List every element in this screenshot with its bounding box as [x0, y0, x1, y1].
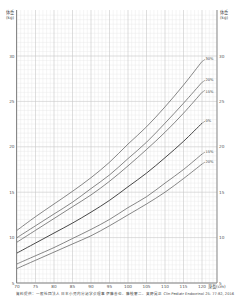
x-tick-label: 80: [51, 284, 57, 289]
y-tick-label-left: 30: [9, 54, 15, 59]
x-tick-label: 75: [33, 284, 39, 289]
y-tick-label-right: 15: [219, 190, 225, 195]
curve-labels: 30%20%15%0%15%20%: [202, 57, 214, 164]
x-tick-label: 95: [107, 284, 113, 289]
y-tick-label-right: 30: [219, 54, 225, 59]
x-tick-label: 105: [143, 284, 151, 289]
source-footnote: 資料提供：一般社団法人 日本小児内分泌学会理事 伊藤善也、藤枝憲二、奥野晃正 C…: [16, 291, 234, 296]
x-tick-label: 90: [88, 284, 94, 289]
x-tick-label: 120: [198, 284, 206, 289]
curve-label: 20%: [206, 160, 215, 164]
x-tick-label: 110: [161, 284, 169, 289]
y-tick-label-left: 15: [9, 190, 15, 195]
curve-label: 0%: [206, 119, 212, 123]
y-tick-label-right: 20: [219, 144, 225, 149]
y-axis-unit-right: (kg): [220, 15, 228, 20]
curve-label: 15%: [206, 90, 215, 94]
y-tick-label-left: 25: [9, 99, 15, 104]
x-axis-title: 身長(cm): [208, 283, 226, 290]
y-tick-label-left: 10: [9, 235, 15, 240]
curve-label: 30%: [206, 57, 215, 61]
x-tick-label: 70: [14, 284, 20, 289]
x-tick-label: 100: [124, 284, 132, 289]
y-tick-label-left: 20: [9, 144, 15, 149]
y-axis-unit-left: (kg): [6, 15, 14, 20]
curve-label: 20%: [206, 78, 215, 82]
y-tick-label-right: 10: [219, 235, 225, 240]
x-tick-label: 85: [70, 284, 76, 289]
x-tick-label: 115: [180, 284, 188, 289]
obesity-chart: 30%20%15%0%15%20% 5510101515202025253030…: [0, 0, 235, 290]
y-tick-label-right: 25: [219, 99, 225, 104]
curve-label: 15%: [206, 150, 215, 154]
